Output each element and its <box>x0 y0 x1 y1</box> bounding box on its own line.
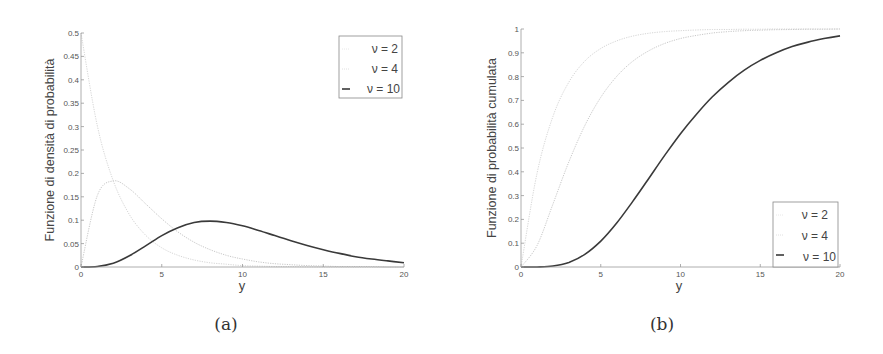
y-tick-label: 0.4 <box>508 168 520 177</box>
y-tick-label: 0.1 <box>68 216 80 225</box>
y-tick-label: 0.4 <box>68 76 80 85</box>
series-line-nu10 <box>81 221 404 267</box>
y-tick-label: 0.25 <box>63 146 79 155</box>
x-axis-label: y <box>239 278 246 293</box>
y-tick-label: 0.05 <box>63 240 79 249</box>
x-tick-label: 5 <box>160 270 165 279</box>
y-tick-label: 0.9 <box>508 49 520 58</box>
x-tick-label: 5 <box>599 270 604 279</box>
y-tick-label: 0.8 <box>508 73 520 82</box>
y-axis-label: Funzione di probabilità cumulata <box>485 58 499 238</box>
y-tick-label: 0.6 <box>508 120 520 129</box>
y-tick-label: 0.15 <box>63 193 79 202</box>
y-tick-label: 0.3 <box>508 192 520 201</box>
panel-a-pdf-chart: 0510152000.050.10.150.20.250.30.350.40.4… <box>43 29 409 334</box>
x-tick-label: 20 <box>400 270 409 279</box>
x-tick-label: 0 <box>519 270 524 279</box>
x-tick-label: 0 <box>79 270 84 279</box>
y-tick-label: 0.1 <box>508 239 520 248</box>
y-tick-label: 0.45 <box>63 52 79 61</box>
legend-entry-nu4: ν = 4 <box>372 62 399 76</box>
panel-b-cdf-chart: 0510152000.10.20.30.40.50.60.70.80.91 Fu… <box>485 25 845 334</box>
y-axis-label: Funzione di densità di probabilità <box>43 59 57 242</box>
legend-entry-nu2: ν = 2 <box>372 42 399 56</box>
y-tick-label: 1 <box>515 25 520 34</box>
legend-entry-nu4: ν = 4 <box>802 229 829 243</box>
legend-entry-nu10: ν = 10 <box>367 82 400 96</box>
x-tick-label: 20 <box>836 270 845 279</box>
series-line-nu4 <box>81 181 404 267</box>
y-tick-label: 0.35 <box>63 99 79 108</box>
x-tick-label: 15 <box>756 270 765 279</box>
y-tick-label: 0.2 <box>508 215 520 224</box>
x-tick-label: 15 <box>319 270 328 279</box>
panel-caption: (b) <box>650 314 674 334</box>
x-axis-label: y <box>676 278 683 293</box>
y-tick-label: 0.5 <box>68 29 80 38</box>
y-tick-label: 0 <box>515 263 520 272</box>
y-tick-label: 0 <box>75 263 80 272</box>
legend: ν = 2 ν = 4 ν = 10 <box>339 36 402 98</box>
y-tick-label: 0.3 <box>68 123 80 132</box>
y-tick-label: 0.5 <box>508 144 520 153</box>
legend-entry-nu2: ν = 2 <box>802 208 829 222</box>
panel-caption: (a) <box>214 314 237 334</box>
figure: 0510152000.050.10.150.20.250.30.350.40.4… <box>0 0 883 354</box>
legend-entry-nu10: ν = 10 <box>803 250 836 264</box>
legend: ν = 2 ν = 4 ν = 10 <box>773 202 838 267</box>
y-tick-label: 0.2 <box>68 169 80 178</box>
y-tick-label: 0.7 <box>508 96 520 105</box>
